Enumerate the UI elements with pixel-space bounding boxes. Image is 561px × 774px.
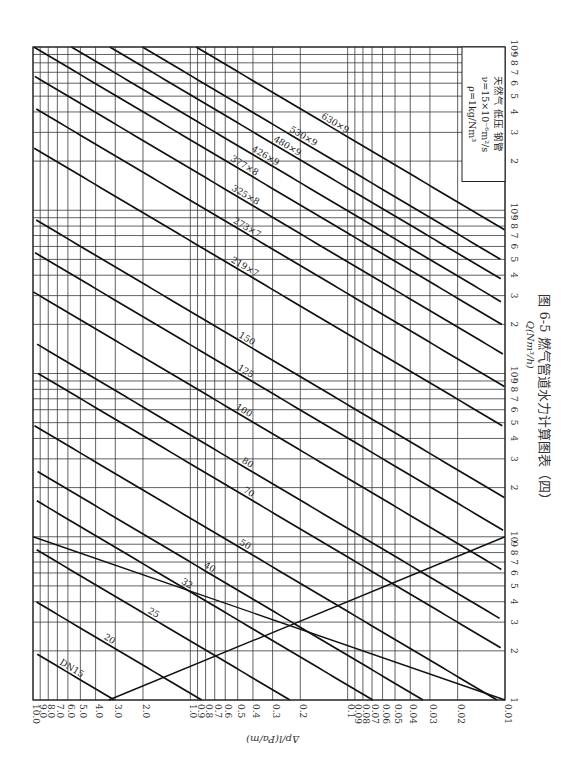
q-tick-label: 2 [509,485,519,491]
dp-tick-label: 5.0 [78,704,88,719]
x-axis-label: Q(Nm³/h) [525,321,536,369]
q-tick-label: 3 [509,129,519,135]
series-label: 50 [238,537,253,552]
legend-line: ρ=1kg/Nm³ [467,86,478,142]
q-axis-ticks: 123456789102345678910²2345678910³2345678… [509,39,519,702]
q-tick-label: 6 [509,570,519,576]
dp-axis-ticks: 10.09.08.07.06.05.04.03.02.01.00.90.80.7… [31,704,513,724]
hydraulic-chart: DN1520253240507080100125150219×7273×7325… [0,0,561,774]
dp-tick-label: 0.2 [298,704,308,718]
dp-tick-label: 0.7 [213,704,223,719]
series-line-50 [34,426,497,700]
transition-boundary-line [33,537,505,700]
q-tick-label: 2 [509,321,519,327]
q-tick-label: 6 [509,407,519,413]
q-tick-label: 10³ [509,203,519,218]
legend: 天然气 低压 钢管ν=15×10⁻⁶m²/sρ=1kg/Nm³ [462,47,505,182]
y-axis-label: Δp/l(Pa/m) [246,734,300,745]
series-line-125 [35,253,503,531]
dp-tick-label: 0.06 [381,704,391,724]
dp-tick-label: 0.05 [393,704,403,724]
q-tick-label: 5 [509,257,519,263]
dp-tick-label: 0.02 [456,704,466,724]
series-line-DN15 [37,654,114,700]
q-tick-label: 8 [509,223,519,229]
q-tick-label: 7 [509,233,519,239]
q-tick-label: 4 [509,109,519,115]
dp-tick-label: 0.04 [408,704,418,724]
q-tick-label: 8 [509,550,519,556]
dp-tick-label: 2.0 [141,704,151,719]
dp-tick-label: 7.0 [55,704,65,719]
q-tick-label: 7 [509,396,519,402]
q-tick-label: 5 [509,420,519,426]
q-tick-label: 5 [509,583,519,589]
q-tick-label: 10 [509,531,519,543]
q-tick-label: 3 [509,293,519,299]
dp-tick-label: 8.0 [46,704,56,719]
q-tick-label: 2 [509,648,519,654]
q-tick-label: 4 [509,436,519,442]
dp-tick-label: 0.01 [503,704,513,724]
q-tick-label: 4 [509,272,519,278]
series-line-630×9 [196,47,504,230]
dp-tick-label: 0.3 [271,704,281,719]
q-tick-label: 8 [509,60,519,66]
dp-tick-label: 0.07 [370,704,380,724]
figure-caption: 图 6-5 燃气管道水力计算图表（四） [537,294,552,505]
boundary-lines [33,537,505,700]
q-tick-label: 7 [509,559,519,565]
dp-tick-label: 0.6 [223,704,233,719]
laminar-boundary-line [109,537,505,700]
dp-tick-label: 6.0 [66,704,76,719]
series-line-32 [37,501,373,700]
series-line-530×9 [142,47,500,259]
dp-tick-label: 0.8 [204,704,214,719]
series-line-100 [33,292,501,570]
q-tick-label: 8 [509,386,519,392]
legend-line: 天然气 低压 钢管 [493,76,504,152]
q-tick-label: 2 [509,158,519,164]
series-label: 70 [241,485,256,500]
series-line-426×9 [71,47,501,302]
q-tick-label: 10⁴ [509,39,519,54]
q-tick-label: 6 [509,244,519,250]
dp-tick-label: 0.5 [236,704,246,719]
series-line-273×7 [36,109,504,387]
q-tick-label: 6 [509,80,519,86]
q-tick-label: 10² [509,366,519,381]
q-tick-label: 3 [509,456,519,462]
dp-tick-label: 0.4 [251,704,261,719]
grid [33,47,505,700]
q-tick-label: 1 [509,697,519,703]
series-line-70 [38,374,501,648]
q-tick-label: 7 [509,69,519,75]
dp-tick-label: 0.08 [361,704,371,724]
series-line-480×9 [110,47,501,279]
dp-tick-label: 0.03 [428,704,438,724]
dp-tick-label: 4.0 [94,704,104,719]
series-label: 25 [146,606,161,621]
q-tick-label: 4 [509,599,519,605]
q-tick-label: 3 [509,619,519,625]
legend-line: ν=15×10⁻⁶m²/s [480,76,491,152]
q-tick-label: 5 [509,93,519,99]
dp-tick-label: 3.0 [113,704,123,719]
series-line-325×8 [35,76,503,354]
